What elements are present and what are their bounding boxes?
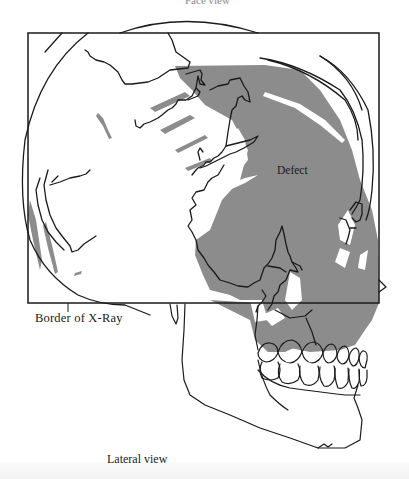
border-of-xray-label: Border of X-Ray <box>35 311 123 326</box>
defect-region <box>28 65 379 352</box>
figure-caption: Lateral view <box>107 452 167 467</box>
top-caption: Face view <box>185 0 230 6</box>
defect-label: Defect <box>277 164 308 176</box>
skull-lateral-diagram <box>0 0 409 479</box>
